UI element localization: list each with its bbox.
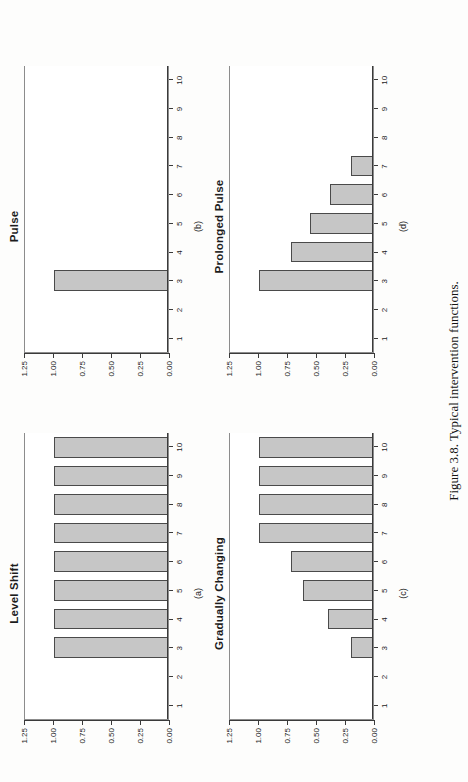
- figure-panel-grid: Level Shift 1.251.000.750.500.250.00 123…: [8, 60, 408, 760]
- bar: [54, 609, 168, 630]
- bar: [328, 609, 373, 630]
- bar-slot: [25, 238, 168, 267]
- bar: [291, 551, 373, 572]
- y-tick-label: 0.75: [283, 361, 292, 377]
- x-tick-label: 7: [175, 164, 184, 168]
- plot-inner: [230, 433, 373, 719]
- y-axis-line: [24, 720, 169, 721]
- y-tick-label: 0.50: [312, 361, 321, 377]
- x-tick-label: 2: [380, 308, 389, 312]
- y-tick: [374, 353, 375, 358]
- x-tick-label: 9: [380, 474, 389, 478]
- panel-gradually-changing: Gradually Changing 1.251.000.750.500.250…: [213, 427, 408, 760]
- bar-slot: [230, 209, 373, 238]
- bar-slot: [230, 462, 373, 491]
- y-tick: [24, 353, 25, 358]
- bar-slot: [25, 576, 168, 605]
- bar: [54, 580, 168, 601]
- x-tick-label: 4: [380, 617, 389, 621]
- y-tick: [287, 720, 288, 725]
- y-axis-line: [229, 720, 374, 721]
- figure-page: Level Shift 1.251.000.750.500.250.00 123…: [0, 0, 468, 782]
- x-tick: [169, 252, 173, 253]
- x-tick: [374, 446, 378, 447]
- plot-inner: [25, 433, 168, 719]
- bar-slot: [25, 152, 168, 181]
- y-tick: [53, 720, 54, 725]
- x-tick: [169, 647, 173, 648]
- x-tick-label: 10: [175, 76, 184, 85]
- x-tick: [169, 338, 173, 339]
- panel-letter: (b): [193, 60, 203, 393]
- y-tick: [258, 353, 259, 358]
- y-tick-label: 0.00: [165, 728, 174, 744]
- y-tick: [169, 720, 170, 725]
- x-tick-label: 8: [380, 136, 389, 140]
- bar-slot: [230, 576, 373, 605]
- y-tick-label: 0.75: [78, 728, 87, 744]
- bar-slot: [230, 295, 373, 324]
- plot-area: [229, 433, 374, 720]
- x-tick-label: 1: [175, 336, 184, 340]
- bar-slot: [230, 66, 373, 95]
- y-tick: [24, 720, 25, 725]
- panel-letter: (a): [193, 427, 203, 760]
- x-tick: [169, 165, 173, 166]
- x-tick: [169, 619, 173, 620]
- bar-slot: [25, 66, 168, 95]
- y-tick: [140, 720, 141, 725]
- x-tick-label: 7: [175, 531, 184, 535]
- y-axis: 1.251.000.750.500.250.00: [24, 353, 169, 393]
- x-tick-label: 7: [380, 531, 389, 535]
- x-tick-label: 8: [380, 503, 389, 507]
- x-tick-label: 7: [380, 164, 389, 168]
- bar-slot: [230, 266, 373, 295]
- x-tick-label: 3: [380, 279, 389, 283]
- bar-slot: [230, 180, 373, 209]
- x-tick: [169, 532, 173, 533]
- bar-slot: [25, 605, 168, 634]
- bar-series: [25, 66, 168, 352]
- x-tick-label: 1: [380, 703, 389, 707]
- plot-area: [229, 66, 374, 353]
- bar: [54, 494, 168, 515]
- bar-slot: [25, 323, 168, 352]
- y-axis: 1.251.000.750.500.250.00: [24, 720, 169, 760]
- y-tick: [316, 720, 317, 725]
- bar: [54, 466, 168, 487]
- bar: [330, 184, 373, 205]
- bar-series: [230, 433, 373, 719]
- x-tick: [169, 137, 173, 138]
- bar: [54, 437, 168, 458]
- bar-slot: [25, 266, 168, 295]
- y-tick-label: 0.50: [107, 728, 116, 744]
- x-tick-label: 5: [175, 222, 184, 226]
- bar: [54, 270, 168, 291]
- x-tick: [374, 705, 378, 706]
- bar-slot: [230, 95, 373, 124]
- y-tick: [82, 720, 83, 725]
- bar-slot: [230, 123, 373, 152]
- panel-prolonged-pulse: Prolonged Pulse 1.251.000.750.500.250.00…: [213, 60, 408, 393]
- bar-slot: [230, 152, 373, 181]
- x-tick: [374, 79, 378, 80]
- y-tick: [345, 720, 346, 725]
- x-tick-label: 9: [175, 474, 184, 478]
- panel-letter: (d): [398, 60, 408, 393]
- x-tick: [169, 705, 173, 706]
- bar: [259, 466, 373, 487]
- panel-pulse: Pulse 1.251.000.750.500.250.00 123456789…: [8, 60, 203, 393]
- y-tick-label: 0.00: [370, 728, 379, 744]
- x-tick-label: 10: [380, 443, 389, 452]
- bar-slot: [230, 519, 373, 548]
- bar-slot: [25, 433, 168, 462]
- x-tick-label: 1: [380, 336, 389, 340]
- x-tick: [374, 338, 378, 339]
- x-tick-label: 6: [380, 560, 389, 564]
- x-tick: [374, 647, 378, 648]
- y-tick-label: 0.00: [370, 361, 379, 377]
- x-tick: [169, 561, 173, 562]
- y-tick: [374, 720, 375, 725]
- x-tick: [169, 280, 173, 281]
- bar-slot: [230, 433, 373, 462]
